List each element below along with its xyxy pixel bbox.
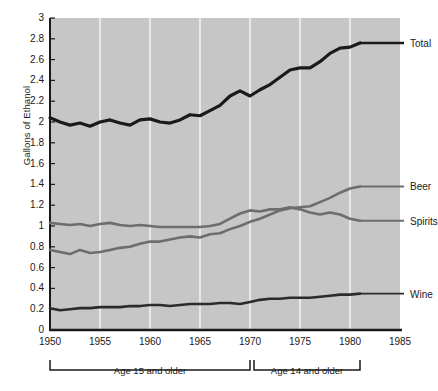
x-tick-label-1985: 1985 xyxy=(389,336,411,347)
x-tick-label-1965: 1965 xyxy=(189,336,211,347)
y-tick-label-3: 3 xyxy=(38,13,44,23)
y-tick-label-1.6: 1.6 xyxy=(30,159,44,169)
y-tick-label-1.2: 1.2 xyxy=(30,200,44,210)
y-tick-label-2.4: 2.4 xyxy=(30,75,44,85)
x-tick-label-1975: 1975 xyxy=(289,336,311,347)
y-tick-label-2.8: 2.8 xyxy=(30,34,44,44)
y-tick-label-1.8: 1.8 xyxy=(30,138,44,148)
x-tick-label-1950: 1950 xyxy=(39,336,61,347)
x-tick-label-1970: 1970 xyxy=(239,336,261,347)
y-axis-tick-labels: 00.20.40.60.811.21.41.61.822.22.42.62.83 xyxy=(18,0,44,391)
y-tick-label-2.6: 2.6 xyxy=(30,55,44,65)
bracket-1 xyxy=(50,360,250,370)
y-tick-label-2.2: 2.2 xyxy=(30,96,44,106)
y-tick-label-0: 0 xyxy=(38,325,44,335)
x-tick-label-1960: 1960 xyxy=(139,336,161,347)
x-tick-label-1980: 1980 xyxy=(339,336,361,347)
series-label-spirits: Spirits xyxy=(410,215,438,226)
y-tick-label-2: 2 xyxy=(38,117,44,127)
plot-background xyxy=(50,18,400,330)
series-label-beer: Beer xyxy=(410,181,431,192)
series-label-wine: Wine xyxy=(410,288,433,299)
x-tick-label-1955: 1955 xyxy=(89,336,111,347)
y-tick-label-1: 1 xyxy=(38,221,44,231)
y-tick-label-0.4: 0.4 xyxy=(30,283,44,293)
bracket-2 xyxy=(254,360,360,370)
y-tick-label-0.8: 0.8 xyxy=(30,242,44,252)
y-tick-label-1.4: 1.4 xyxy=(30,179,44,189)
y-tick-label-0.6: 0.6 xyxy=(30,263,44,273)
y-tick-label-0.2: 0.2 xyxy=(30,304,44,314)
bracket-canvas xyxy=(0,356,422,386)
x-axis-tick-labels: 19501955196019651970197519801985 xyxy=(0,336,422,350)
series-label-total: Total xyxy=(410,37,431,48)
